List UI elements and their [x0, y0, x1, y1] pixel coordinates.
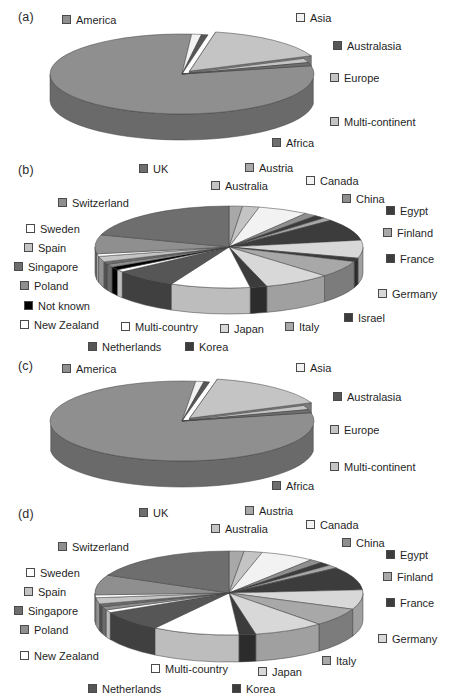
legend-item-netherlands: Netherlands — [88, 341, 161, 352]
legend-item-label: Germany — [392, 289, 437, 300]
legend-swatch-icon — [20, 651, 29, 660]
legend-item-egypt: Egypt — [386, 205, 428, 216]
legend-item-canada: Canada — [306, 175, 359, 186]
pie-slice-side — [97, 254, 99, 283]
legend-item-singapore: Singapore — [14, 261, 78, 272]
panel-c-label: (c) — [18, 359, 33, 373]
legend-item-label: Not known — [38, 301, 90, 312]
legend-item-label: Multi-continent — [344, 462, 416, 473]
legend-item-label: Italy — [299, 322, 319, 333]
legend-item-label: Africa — [286, 138, 314, 149]
legend-item-sweden: Sweden — [26, 223, 80, 234]
legend-swatch-icon — [62, 15, 71, 24]
legend-item-label: Finland — [397, 228, 433, 239]
legend-swatch-icon — [245, 506, 254, 515]
legend-item-korea: Korea — [232, 683, 275, 694]
pie-slice-side — [239, 634, 256, 662]
legend-item-korea: Korea — [185, 341, 228, 352]
legend-item-label: Singapore — [28, 262, 78, 273]
legend-swatch-icon — [20, 281, 29, 290]
legend-swatch-icon — [20, 320, 29, 329]
legend-item-label: Asia — [310, 363, 331, 374]
pie-slice-side — [100, 604, 103, 634]
legend-item-label: Netherlands — [102, 684, 161, 695]
legend-item-america: America — [62, 363, 116, 374]
legend-swatch-icon — [151, 664, 160, 673]
legend-swatch-icon — [285, 322, 294, 331]
legend-item-germany: Germany — [378, 288, 437, 299]
legend-item-label: Australia — [225, 524, 268, 535]
legend-swatch-icon — [386, 598, 395, 607]
legend-swatch-icon — [378, 289, 387, 298]
legend-item-australia: Australia — [211, 180, 268, 191]
legend-item-label: Austria — [259, 506, 293, 517]
legend-item-netherlands: Netherlands — [88, 683, 161, 694]
legend-swatch-icon — [58, 198, 67, 207]
legend-item-america: America — [62, 14, 116, 25]
legend-item-label: Spain — [38, 243, 66, 254]
legend-item-finland: Finland — [383, 227, 433, 238]
pie-slice-side — [250, 286, 267, 313]
panel-d: (d) UKAustriaCanadaAustraliaChinaSwitzer… — [0, 493, 452, 695]
legend-item-label: China — [356, 538, 385, 549]
legend-item-sweden: Sweden — [26, 567, 80, 578]
legend-item-europe: Europe — [330, 424, 379, 435]
legend-item-label: Multi-country — [165, 664, 228, 675]
legend-item-label: Austria — [259, 163, 293, 174]
legend-item-singapore: Singapore — [14, 605, 78, 616]
legend-item-label: Asia — [310, 13, 331, 24]
legend-item-label: Switzerland — [72, 542, 129, 553]
legend-item-label: Spain — [38, 587, 66, 598]
legend-swatch-icon — [386, 254, 395, 263]
legend-swatch-icon — [58, 542, 67, 551]
panel-a: (a) AmericaAsiaAustralasiaEuropeMulti-co… — [0, 0, 452, 155]
legend-item-label: Canada — [320, 520, 359, 531]
legend-item-japan: Japan — [220, 323, 264, 334]
legend-swatch-icon — [342, 194, 351, 203]
legend-item-label: New Zealand — [34, 651, 99, 662]
legend-item-label: Europe — [344, 73, 379, 84]
legend-item-austria: Austria — [245, 505, 293, 516]
pie-slice-side — [102, 607, 106, 637]
legend-swatch-icon — [139, 164, 148, 173]
legend-swatch-icon — [211, 181, 220, 190]
pie-chart-b — [88, 197, 370, 312]
legend-swatch-icon — [306, 176, 315, 185]
panel-b: (b) UKAustriaCanadaAustraliaChinaSwitzer… — [0, 155, 452, 353]
legend-item-label: Egypt — [400, 206, 428, 217]
legend-item-israel: Israel — [344, 312, 385, 323]
legend-swatch-icon — [306, 520, 315, 529]
legend-swatch-icon — [121, 322, 130, 331]
legend-item-italy: Italy — [322, 655, 356, 666]
legend-swatch-icon — [14, 606, 23, 615]
legend-swatch-icon — [26, 568, 35, 577]
legend-item-japan: Japan — [258, 666, 302, 677]
legend-swatch-icon — [232, 684, 241, 693]
panel-b-label: (b) — [18, 163, 34, 177]
legend-swatch-icon — [220, 324, 229, 333]
legend-item-label: Canada — [320, 176, 359, 187]
pie-slice-side — [117, 270, 122, 298]
legend-item-label: Egypt — [400, 550, 428, 561]
legend-swatch-icon — [24, 587, 33, 596]
pie-chart-d — [88, 541, 370, 659]
legend-swatch-icon — [342, 538, 351, 547]
legend-swatch-icon — [383, 572, 392, 581]
legend-item-austria: Austria — [245, 162, 293, 173]
legend-swatch-icon — [383, 228, 392, 237]
pie-slice-side — [112, 267, 117, 296]
legend-item-australasia: Australasia — [333, 40, 401, 51]
pie-chart-a — [42, 26, 322, 136]
legend-item-label: Korea — [199, 342, 228, 353]
legend-item-label: China — [356, 194, 385, 205]
panel-d-label: (d) — [18, 507, 34, 521]
legend-swatch-icon — [322, 656, 331, 665]
legend-item-label: France — [400, 598, 434, 609]
legend-item-finland: Finland — [383, 571, 433, 582]
legend-swatch-icon — [14, 262, 23, 271]
legend-item-label: Europe — [344, 425, 379, 436]
legend-swatch-icon — [344, 313, 353, 322]
legend-swatch-icon — [211, 524, 220, 533]
legend-item-label: France — [400, 254, 434, 265]
legend-swatch-icon — [26, 224, 35, 233]
